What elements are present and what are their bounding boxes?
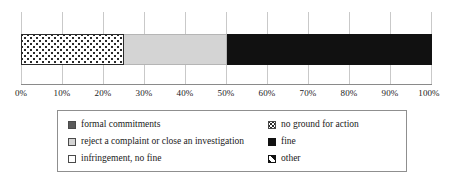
dark-gray-swatch-icon <box>68 121 76 129</box>
x-tick-label-80: 80% <box>341 88 358 98</box>
x-tick-label-20: 20% <box>95 88 112 98</box>
x-tick-label-40: 40% <box>177 88 194 98</box>
legend-label-infringement-no-fine: infringement, no fine <box>81 154 161 164</box>
x-tick-label-90: 90% <box>382 88 399 98</box>
x-tick-label-0: 0% <box>15 88 27 98</box>
legend: formal commitments no ground for action … <box>57 110 407 172</box>
legend-label-no-ground-for-action: no ground for action <box>281 120 359 130</box>
legend-label-other: other <box>281 154 301 164</box>
legend-label-fine: fine <box>281 137 296 147</box>
legend-label-reject-complaint: reject a complaint or close an investiga… <box>81 137 244 147</box>
dotted-swatch-icon <box>268 121 276 129</box>
legend-item-formal-commitments: formal commitments <box>68 120 268 130</box>
legend-item-reject-complaint: reject a complaint or close an investiga… <box>68 137 268 147</box>
x-axis-labels: 0% 10% 20% 30% 40% 50% 60% 70% 80% 90% 1… <box>21 88 432 102</box>
x-axis-line <box>21 84 432 85</box>
x-tick-label-30: 30% <box>136 88 153 98</box>
black-swatch-icon <box>268 138 276 146</box>
light-gray-swatch-icon <box>68 138 76 146</box>
stacked-bar-chart: 0% 10% 20% 30% 40% 50% 60% 70% 80% 90% 1… <box>0 0 454 180</box>
bar-segment-reject-complaint <box>124 34 227 65</box>
plot-area <box>21 12 432 84</box>
legend-label-formal-commitments: formal commitments <box>81 120 160 130</box>
legend-item-other: other <box>268 154 418 164</box>
bar-segment-no-ground-for-action <box>21 34 124 65</box>
x-tick-label-10: 10% <box>54 88 71 98</box>
bar-segment-fine <box>227 34 433 65</box>
legend-item-fine: fine <box>268 137 418 147</box>
legend-item-infringement-no-fine: infringement, no fine <box>68 154 268 164</box>
stacked-bar <box>21 34 432 65</box>
x-tick-label-60: 60% <box>259 88 276 98</box>
x-tick-label-70: 70% <box>300 88 317 98</box>
x-tick-label-100: 100% <box>418 88 439 98</box>
hatch-swatch-icon <box>268 155 276 163</box>
legend-item-no-ground-for-action: no ground for action <box>268 120 418 130</box>
x-tick-label-50: 50% <box>218 88 235 98</box>
white-swatch-icon <box>68 155 76 163</box>
